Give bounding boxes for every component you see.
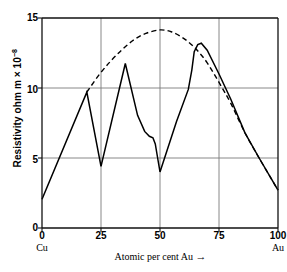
series-path-dashed bbox=[87, 30, 278, 190]
plot-area bbox=[0, 0, 287, 272]
resistivity-chart-figure: Resistivity ohm m × 10−8 15 10 5 0 0 25 … bbox=[0, 0, 287, 272]
gridlines bbox=[42, 18, 278, 228]
